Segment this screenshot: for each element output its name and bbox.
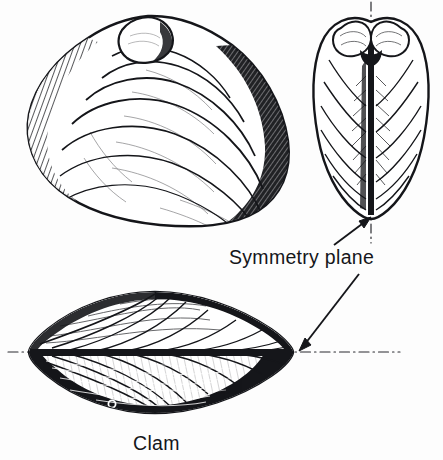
clam-symmetry-figure: Symmetry plane Clam bbox=[0, 0, 443, 460]
illustration-canvas bbox=[0, 0, 443, 460]
dorsal-commissure-line bbox=[30, 349, 293, 356]
symmetry-plane-label: Symmetry plane bbox=[229, 246, 374, 269]
specimen-name-label: Clam bbox=[133, 432, 180, 455]
anterior-hinge-seam bbox=[368, 40, 374, 215]
